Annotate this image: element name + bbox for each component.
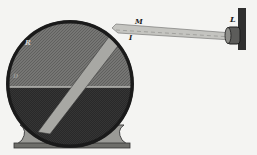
refraction-apparatus-figure: L M I R D xyxy=(0,0,257,155)
label-D: D xyxy=(12,72,19,79)
label-M: M xyxy=(134,17,143,26)
label-R: R xyxy=(24,38,31,47)
label-I: I xyxy=(128,33,133,42)
label-L: L xyxy=(229,14,236,24)
